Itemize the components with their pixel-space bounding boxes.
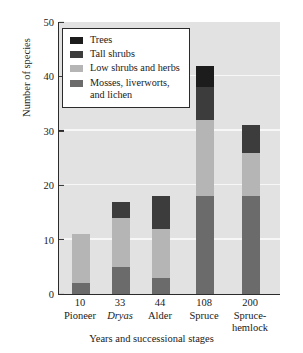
bar-segment — [72, 234, 90, 283]
bar-column — [112, 202, 130, 294]
bar-segment — [196, 66, 214, 88]
legend: TreesTall shrubsLow shrubs and herbsMoss… — [62, 28, 190, 108]
bar-segment — [242, 153, 260, 197]
bar-column — [196, 66, 214, 294]
x-axis-title: Years and successional stages — [0, 333, 303, 344]
legend-swatch-icon — [70, 51, 83, 58]
legend-swatch-icon — [70, 80, 83, 87]
legend-item: Tall shrubs — [70, 48, 180, 60]
bar-segment — [112, 267, 130, 294]
legend-item: Trees — [70, 34, 180, 46]
bar-segment — [112, 218, 130, 267]
legend-swatch-icon — [70, 65, 83, 72]
y-axis-tick-label: 50 — [44, 17, 60, 28]
x-label-years: 200 — [213, 297, 287, 310]
species-succession-chart: Number of species 01020304050 10Pioneer3… — [0, 0, 303, 353]
legend-label: Low shrubs and herbs — [90, 62, 180, 74]
legend-swatch-icon — [70, 37, 83, 44]
legend-item: Low shrubs and herbs — [70, 62, 180, 74]
bar-segment — [196, 120, 214, 196]
bar-segment — [196, 196, 214, 294]
y-axis-tick-label: 30 — [44, 125, 60, 136]
bar-column — [152, 196, 170, 294]
bar-segment — [242, 196, 260, 294]
legend-item: Mosses, liverworts, and lichen — [70, 77, 180, 101]
y-axis-tick-label: 20 — [44, 180, 60, 191]
bar-segment — [152, 229, 170, 278]
legend-label: Tall shrubs — [90, 48, 135, 60]
y-axis-title: Number of species — [21, 8, 32, 148]
bar-segment — [152, 278, 170, 294]
legend-label: Trees — [90, 34, 112, 46]
x-axis-line — [58, 294, 280, 295]
bar-segment — [72, 283, 90, 294]
x-axis-tick-label: 200Spruce- hemlock — [213, 297, 287, 335]
bar-segment — [242, 125, 260, 152]
bar-column — [242, 125, 260, 294]
legend-label: Mosses, liverworts, and lichen — [90, 77, 170, 101]
bar-segment — [196, 87, 214, 120]
y-axis-tick-label: 10 — [44, 234, 60, 245]
x-label-stage: Spruce- hemlock — [213, 310, 287, 335]
y-axis-tick-label: 40 — [44, 71, 60, 82]
bar-segment — [112, 202, 130, 218]
bar-column — [72, 234, 90, 294]
bar-segment — [152, 196, 170, 229]
